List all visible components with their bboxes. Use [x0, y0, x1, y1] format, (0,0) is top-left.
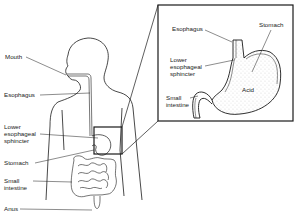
label-stomach: Stomach: [4, 159, 28, 166]
label-esophagus: Esophagus: [4, 91, 35, 98]
inset-label-acid: Acid: [242, 86, 254, 93]
label-anus: Anus: [4, 205, 18, 212]
connector-lines: [122, 5, 158, 154]
label-mouth: Mouth: [5, 53, 22, 60]
inset-label-stomach: Stomach: [259, 21, 283, 28]
intestines: [71, 156, 116, 209]
body-outline: [46, 38, 142, 200]
zoom-region-box: [94, 127, 122, 154]
label-small-intestine: Small intestine: [4, 177, 27, 191]
label-lower-esophageal-sphincter: Lower esophageal sphincter: [4, 123, 36, 144]
digestive-diagram: [0, 0, 297, 219]
inset-label-esophagus: Esophagus: [172, 25, 203, 32]
inset-label-small-intestine: Small intestine: [166, 94, 189, 108]
inset-label-lower-esophageal-sphincter: Lower esophageal sphincter: [170, 56, 202, 77]
